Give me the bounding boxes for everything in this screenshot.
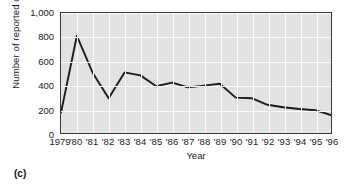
x-tick-label: '90 (230, 136, 242, 147)
gridline-vertical (301, 13, 302, 133)
x-tick-label: '87 (182, 136, 194, 147)
x-tick-label: '83 (118, 136, 130, 147)
x-tick-label: '91 (246, 136, 258, 147)
gridline-vertical (77, 13, 78, 133)
line-series (61, 13, 331, 133)
gridline-vertical (189, 13, 190, 133)
gridline-vertical (317, 13, 318, 133)
x-axis-label: Year (60, 150, 332, 161)
gridline-horizontal (61, 13, 331, 14)
gridline-vertical (285, 13, 286, 133)
x-tick-label: '93 (278, 136, 290, 147)
x-tick-label: 1979 (49, 136, 70, 147)
x-tick-label: '84 (134, 136, 146, 147)
gridline-horizontal (61, 111, 331, 112)
x-tick-label: '88 (198, 136, 210, 147)
y-tick-label: 600 (38, 55, 54, 66)
y-tick-label: 1,000 (30, 7, 54, 18)
x-tick-label: '80 (70, 136, 82, 147)
figure-panel: Number of reported cases 02004006008001,… (0, 0, 361, 190)
x-tick-label: '81 (86, 136, 98, 147)
x-tick-label: '89 (214, 136, 226, 147)
x-tick-label: '85 (150, 136, 162, 147)
gridline-vertical (205, 13, 206, 133)
y-tick-label: 800 (38, 31, 54, 42)
gridline-horizontal (61, 62, 331, 63)
gridline-vertical (141, 13, 142, 133)
plot-area (60, 12, 332, 134)
gridline-vertical (237, 13, 238, 133)
gridline-horizontal (61, 86, 331, 87)
x-axis-tick-labels: 1979'80'81'82'83'84'85'86'87'88'89'90'91… (0, 136, 361, 150)
gridline-vertical (253, 13, 254, 133)
gridline-vertical (125, 13, 126, 133)
x-tick-label: '86 (166, 136, 178, 147)
gridline-vertical (93, 13, 94, 133)
x-tick-label: '94 (294, 136, 306, 147)
gridline-vertical (221, 13, 222, 133)
y-tick-label: 400 (38, 80, 54, 91)
x-tick-label: '96 (326, 136, 338, 147)
gridline-vertical (157, 13, 158, 133)
gridline-vertical (173, 13, 174, 133)
gridline-vertical (269, 13, 270, 133)
gridline-horizontal (61, 37, 331, 38)
y-axis-tick-labels: 02004006008001,000 (0, 0, 58, 190)
gridline-vertical (109, 13, 110, 133)
y-tick-label: 200 (38, 104, 54, 115)
x-tick-label: '95 (310, 136, 322, 147)
series-polyline (61, 36, 331, 115)
x-tick-label: '82 (102, 136, 114, 147)
x-tick-label: '92 (262, 136, 274, 147)
figure-caption: (c) (14, 168, 26, 179)
